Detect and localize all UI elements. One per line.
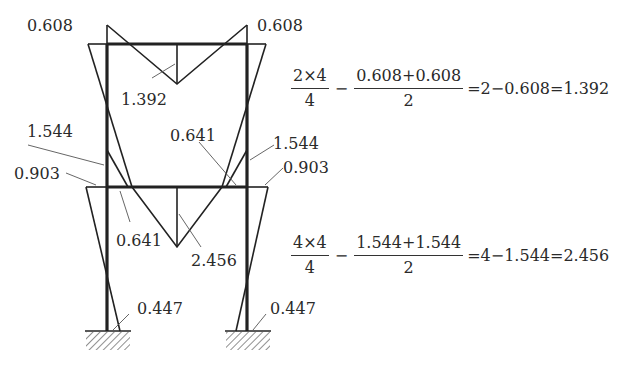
left-support-hatch (86, 332, 130, 350)
fraction: 4×4 4 (291, 234, 329, 277)
label-top-right-corner: 0.608 (257, 18, 303, 34)
label-mid-beam-mid: 2.456 (191, 253, 237, 269)
label-lower-left-col-top: 0.903 (14, 166, 60, 182)
fraction: 2×4 4 (291, 67, 329, 110)
frame-diagram (0, 0, 639, 368)
label-left-base: 0.447 (137, 301, 183, 317)
label-right-base: 0.447 (270, 301, 316, 317)
label-upper-right-col-bottom: 1.544 (273, 136, 319, 152)
equation-result: =2−0.608=1.392 (467, 79, 609, 98)
fixed-supports (85, 331, 271, 350)
fraction: 1.544+1.544 2 (354, 234, 463, 277)
label-upper-left-col-bottom: 1.544 (27, 124, 73, 140)
equation-middle-beam: 4×4 4 − 1.544+1.544 2 =4−1.544=2.456 (287, 234, 609, 277)
moment-diagram (86, 25, 268, 331)
fraction: 0.608+0.608 2 (354, 67, 463, 110)
label-top-left-corner: 0.608 (27, 18, 73, 34)
label-top-beam-mid: 1.392 (121, 92, 167, 108)
label-mid-beam-right-end: 0.641 (170, 128, 216, 144)
equation-result: =4−1.544=2.456 (467, 246, 609, 265)
equation-top-beam: 2×4 4 − 0.608+0.608 2 =2−0.608=1.392 (287, 67, 609, 110)
label-lower-right-col-top: 0.903 (283, 160, 329, 176)
right-support-hatch (226, 332, 270, 350)
label-mid-beam-left-end: 0.641 (116, 233, 162, 249)
